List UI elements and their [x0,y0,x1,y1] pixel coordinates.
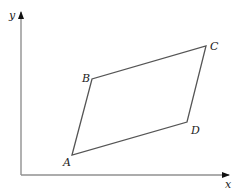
parallelogram-abcd [72,46,206,155]
vertex-label-b: B [81,72,90,85]
diagram-svg: y x A B C D [0,0,242,192]
diagram-canvas: y x A B C D [0,0,242,192]
vertex-label-c: C [210,40,219,53]
vertex-label-a: A [62,156,71,169]
x-axis-label: x [225,178,232,191]
y-axis-label: y [8,9,16,22]
vertex-label-d: D [190,124,200,137]
